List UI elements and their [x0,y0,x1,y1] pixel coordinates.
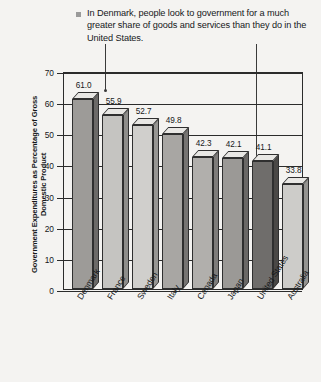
caption-text: In Denmark, people look to government fo… [87,7,308,44]
square-bullet-icon [76,12,81,17]
bar-side-face [153,118,159,289]
y-tick-60 [57,104,64,105]
bar-front-face [222,158,243,289]
bar-side-face [213,150,219,289]
y-tick-label-70: 70 [45,68,54,78]
y-tick-label-50: 50 [45,130,54,140]
y-tick-0 [57,291,64,292]
bar-front-face [252,161,273,289]
bar-canada: 42.3 [192,157,213,289]
bar-side-face [243,151,249,289]
y-tick-70 [57,73,64,74]
bar-denmark: 61.0 [72,99,93,289]
bar-front-face [192,157,213,289]
bar-france: 55.9 [102,115,123,289]
bar-value-label: 52.7 [124,107,164,116]
bar-japan: 42.1 [222,158,243,289]
bar-italy: 49.8 [162,134,183,289]
y-tick-label-30: 30 [45,193,54,203]
y-tick-label-10: 10 [45,255,54,265]
bar-front-face [132,125,153,289]
y-tick-30 [57,198,64,199]
bar-front-face [102,115,123,289]
y-tick-label-40: 40 [45,161,54,171]
bar-side-face [93,92,99,289]
chart-figure: In Denmark, people look to government fo… [0,0,321,382]
plot-area: 010203040506070 61.055.952.749.842.342.1… [63,72,303,290]
bar-series: 61.055.952.749.842.342.141.133.8 [64,73,302,289]
bar-value-label: 55.9 [94,97,134,106]
chart-caption: In Denmark, people look to government fo… [76,7,308,44]
y-tick-label-60: 60 [45,99,54,109]
bar-value-label: 61.0 [64,81,104,90]
y-tick-label-0: 0 [49,286,54,296]
bar-side-face [123,108,129,289]
y-tick-10 [57,260,64,261]
y-tick-40 [57,166,64,167]
y-tick-50 [57,135,64,136]
bar-front-face [72,99,93,289]
bar-united-states: 41.1 [252,161,273,289]
y-tick-20 [57,229,64,230]
bar-front-face [162,134,183,289]
bar-side-face [183,127,189,289]
bar-value-label: 49.8 [154,116,194,125]
bar-sweden: 52.7 [132,125,153,289]
y-tick-label-20: 20 [45,224,54,234]
bar-value-label: 33.8 [274,166,314,175]
bar-value-label: 41.1 [244,143,284,152]
